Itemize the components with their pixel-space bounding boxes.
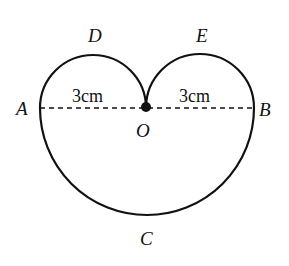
label-B: B xyxy=(259,99,271,120)
measure-AO: 3cm xyxy=(72,86,103,106)
heart-diagram: A B O C D E 3cm 3cm xyxy=(0,0,289,266)
point-O xyxy=(141,102,151,112)
label-C: C xyxy=(140,228,153,249)
label-O: O xyxy=(136,120,150,141)
measure-OB: 3cm xyxy=(179,86,210,106)
label-E: E xyxy=(195,25,208,46)
label-D: D xyxy=(87,25,102,46)
label-A: A xyxy=(14,98,28,119)
